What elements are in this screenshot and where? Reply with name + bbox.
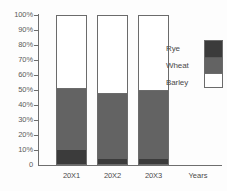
legend-swatch-box (204, 40, 223, 88)
bar-segment-barley-20X3 (139, 16, 168, 90)
bar-segment-wheat-20X1 (57, 88, 86, 150)
bar-segment-rye-20X3 (139, 159, 168, 166)
x-axis-label-20X2: 20X2 (97, 171, 128, 180)
y-axis-tick-label-10: 10% (0, 146, 33, 154)
y-axis-tick-mark-10 (34, 150, 39, 151)
y-axis-tick-label-0: 0 (0, 161, 33, 169)
stacked-bar-chart: 100% 90% 80% 70% 60% 50% 40% 30% 20% 10%… (0, 0, 227, 191)
bar-segment-wheat-20X2 (98, 93, 127, 159)
legend-label-barley: Barley (166, 78, 188, 87)
y-axis-tick-mark-50 (34, 90, 39, 91)
legend-swatch-rye (205, 41, 222, 57)
bar-segment-rye-20X1 (57, 150, 86, 166)
y-axis-tick-mark-90 (34, 30, 39, 31)
y-axis-tick-label-50: 50% (0, 86, 33, 94)
y-axis-tick-label-80: 80% (0, 41, 33, 49)
y-axis-tick-mark-100 (34, 15, 39, 16)
y-axis-tick-mark-80 (34, 45, 39, 46)
legend-swatch-barley (205, 73, 222, 88)
y-axis-tick-mark-60 (34, 75, 39, 76)
y-axis-tick-label-60: 60% (0, 71, 33, 79)
bar-20X1 (56, 15, 87, 165)
y-axis-tick-label-70: 70% (0, 56, 33, 64)
bar-20X3 (138, 15, 169, 165)
x-axis-label-20X1: 20X1 (56, 171, 87, 180)
bar-20X2 (97, 15, 128, 165)
x-axis-title: Years (178, 171, 218, 180)
y-axis-tick-mark-20 (34, 135, 39, 136)
y-axis-tick-label-100: 100% (0, 11, 33, 19)
legend-swatch-wheat (205, 57, 222, 73)
x-axis-line (38, 165, 222, 166)
y-axis-tick-label-90: 90% (0, 26, 33, 34)
x-axis-label-20X3: 20X3 (138, 171, 169, 180)
y-axis-tick-label-20: 20% (0, 131, 33, 139)
y-axis-tick-mark-70 (34, 60, 39, 61)
legend-label-wheat: Wheat (166, 61, 189, 70)
bar-segment-rye-20X2 (98, 159, 127, 166)
y-axis-tick-mark-40 (34, 105, 39, 106)
y-axis-tick-label-30: 30% (0, 116, 33, 124)
y-axis-tick-mark-30 (34, 120, 39, 121)
y-axis-tick-label-40: 40% (0, 101, 33, 109)
bar-segment-barley-20X1 (57, 16, 86, 88)
bar-segment-barley-20X2 (98, 16, 127, 93)
legend-label-rye: Rye (166, 44, 180, 53)
bar-segment-wheat-20X3 (139, 90, 168, 159)
